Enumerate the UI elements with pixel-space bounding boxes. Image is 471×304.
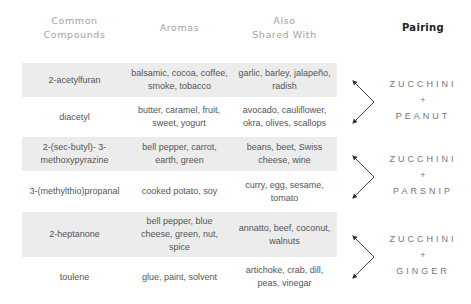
compound-cell: diacetyl — [22, 97, 127, 137]
pairing-plus: + — [375, 247, 471, 263]
bracket-arrow-icon — [350, 78, 376, 126]
shared-cell: garlic, barley, jalapeño, radish — [232, 63, 337, 97]
pairing-second: GINGER — [375, 263, 471, 279]
pairing-plus: + — [375, 92, 471, 108]
bracket-arrow-icon — [350, 233, 376, 281]
compound-cell: 3-(methylthio)propanal — [22, 171, 127, 212]
aromas-cell: butter, caramel, fruit, sweet, yogurt — [127, 97, 231, 137]
aromas-cell: balsamic, cocoa, coffee, smoke, tobacco — [127, 63, 232, 97]
pairing-zucchini-parsnip: ZUCCHINI + PARSNIP — [375, 151, 471, 199]
pairing-first: ZUCCHINI — [375, 76, 471, 92]
header-line: Compounds — [44, 28, 106, 42]
header-line: Also — [252, 14, 317, 28]
aromas-cell: glue, paint, solvent — [127, 257, 232, 297]
header-common-compounds: CommonCompounds — [22, 0, 127, 56]
header-line: Aromas — [160, 21, 200, 35]
compound-cell: 2-acetylfuran — [22, 63, 127, 97]
shared-cell: avocado, cauliflower, okra, olives, scal… — [232, 97, 337, 137]
pairing-second: PEANUT — [375, 108, 471, 124]
header-line: Pairing — [402, 21, 444, 35]
compound-cell: toulene — [22, 257, 127, 297]
shared-cell: artichoke, crab, dill, peas, vinegar — [237, 257, 332, 297]
pairing-first: ZUCCHINI — [375, 151, 471, 167]
aromas-cell: bell pepper, blue cheese, green, nut, sp… — [137, 212, 222, 257]
pairing-plus: + — [375, 167, 471, 183]
pairing-second: PARSNIP — [375, 183, 471, 199]
pairing-zucchini-ginger: ZUCCHINI + GINGER — [375, 231, 471, 279]
bracket-arrow-icon — [350, 153, 376, 201]
header-also-shared-with: AlsoShared With — [232, 0, 337, 56]
aromas-cell: cooked potato, soy — [127, 171, 232, 212]
pairing-zucchini-peanut: ZUCCHINI + PEANUT — [375, 76, 471, 124]
header-line: Shared With — [252, 28, 317, 42]
compound-cell: 2-heptanone — [22, 212, 127, 257]
shared-cell: curry, egg, sesame, tomato — [237, 171, 332, 212]
pairing-first: ZUCCHINI — [375, 231, 471, 247]
shared-cell: beans, beet, Swiss cheese, wine — [237, 137, 332, 171]
header-line: Common — [44, 14, 106, 28]
header-aromas: Aromas — [127, 0, 232, 56]
aromas-cell: bell pepper, carrot, earth, green — [132, 137, 227, 171]
compound-cell: 2-(sec-butyl)- 3-methoxypyrazine — [27, 137, 122, 171]
header-pairing: Pairing — [375, 0, 471, 56]
shared-cell: annatto, beef, coconut, walnuts — [232, 212, 337, 257]
